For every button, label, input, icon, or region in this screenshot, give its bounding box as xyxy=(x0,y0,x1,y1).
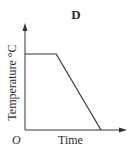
x-axis-arrow-icon xyxy=(119,128,127,133)
chart-plot xyxy=(0,0,128,155)
y-axis-arrow-icon xyxy=(23,23,28,31)
axes xyxy=(25,27,122,130)
temperature-line xyxy=(25,54,101,130)
